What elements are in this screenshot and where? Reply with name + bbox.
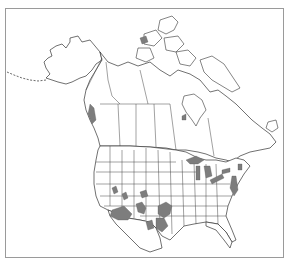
baffin-island <box>200 56 240 92</box>
north-america-map <box>0 0 289 260</box>
arctic-island-4 <box>176 50 196 66</box>
ellesmere-island <box>158 16 178 34</box>
newfoundland <box>266 120 278 132</box>
arctic-island-3 <box>136 48 154 62</box>
lake-michigan-shore <box>196 166 200 180</box>
canada <box>84 52 276 162</box>
aleutian-islands <box>7 72 46 81</box>
arctic-island-2 <box>164 36 184 52</box>
range-new-england <box>238 164 242 170</box>
